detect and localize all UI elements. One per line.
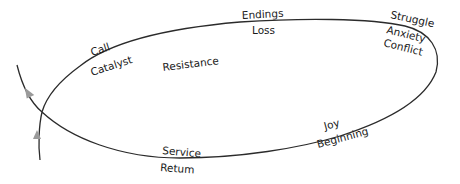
cycle-diagram: Call Catalyst Resistance Endings Loss St… xyxy=(0,0,460,184)
upper-arrow-icon xyxy=(25,86,35,98)
label-joy: Joy xyxy=(321,116,340,132)
label-loss: Loss xyxy=(252,24,275,36)
cycle-curve xyxy=(17,19,438,160)
label-return: Retum xyxy=(160,161,195,175)
label-resistance: Resistance xyxy=(162,54,220,73)
label-service: Service xyxy=(162,144,202,159)
label-beginning: Beginning xyxy=(315,125,369,150)
label-call: Call xyxy=(89,40,111,57)
label-endings: Endings xyxy=(241,7,283,21)
